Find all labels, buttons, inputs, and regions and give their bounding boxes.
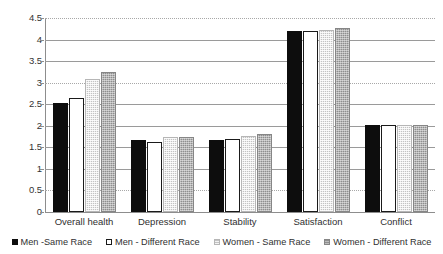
y-axis-tick-label: 4 bbox=[2, 35, 42, 45]
legend-swatch-icon bbox=[214, 239, 220, 245]
x-axis-tick-label: Satisfaction bbox=[279, 216, 357, 228]
bar[interactable] bbox=[257, 134, 272, 212]
x-axis-tick-label: Stability bbox=[201, 216, 279, 228]
y-axis-tick-mark bbox=[40, 126, 44, 127]
bar[interactable] bbox=[397, 125, 412, 212]
legend-item-label: Men -Same Race bbox=[21, 237, 93, 247]
bar[interactable] bbox=[53, 103, 68, 212]
bar[interactable] bbox=[365, 125, 380, 212]
bar-group bbox=[357, 18, 435, 212]
legend-item[interactable]: Women - Different Race bbox=[324, 237, 431, 247]
bar[interactable] bbox=[287, 31, 302, 212]
bar-group-bars bbox=[279, 18, 365, 212]
bar[interactable] bbox=[335, 28, 350, 213]
y-axis-tick-label: 1 bbox=[2, 164, 42, 174]
legend-item[interactable]: Men -Same Race bbox=[12, 237, 93, 247]
legend-swatch-icon bbox=[324, 239, 330, 245]
bar-group bbox=[123, 18, 201, 212]
y-axis: 4.543.532.521.510.50 bbox=[0, 18, 42, 212]
legend-item[interactable]: Women - Same Race bbox=[214, 237, 311, 247]
bar[interactable] bbox=[241, 136, 256, 212]
y-axis-tick-mark bbox=[40, 212, 44, 213]
bar-group-bars bbox=[201, 18, 287, 212]
y-axis-tick-mark bbox=[40, 190, 44, 191]
legend-swatch-icon bbox=[106, 239, 112, 245]
bar-group-bars bbox=[45, 18, 131, 212]
bar-group bbox=[201, 18, 279, 212]
legend-item[interactable]: Men - Different Race bbox=[106, 237, 200, 247]
legend-item-label: Men - Different Race bbox=[115, 237, 200, 247]
x-axis-tick-label: Depression bbox=[123, 216, 201, 228]
y-axis-tick-label: 2 bbox=[2, 121, 42, 131]
bar[interactable] bbox=[225, 139, 240, 212]
bar[interactable] bbox=[413, 125, 428, 212]
y-axis-tick-mark bbox=[40, 61, 44, 62]
bar[interactable] bbox=[85, 79, 100, 212]
y-axis-tick-mark bbox=[40, 40, 44, 41]
x-axis-line bbox=[45, 212, 435, 213]
y-axis-tick-mark bbox=[40, 147, 44, 148]
y-axis-tick-mark bbox=[40, 83, 44, 84]
y-axis-tick-label: 0.5 bbox=[2, 185, 42, 195]
y-axis-tick-label: 3.5 bbox=[2, 56, 42, 66]
bar-group-bars bbox=[357, 18, 443, 212]
chart-legend: Men -Same RaceMen - Different RaceWomen … bbox=[0, 234, 443, 250]
y-axis-tick-mark bbox=[40, 169, 44, 170]
bar[interactable] bbox=[131, 140, 146, 212]
bar[interactable] bbox=[163, 137, 178, 212]
bar-group bbox=[45, 18, 123, 212]
bar[interactable] bbox=[209, 140, 224, 212]
bar[interactable] bbox=[179, 137, 194, 212]
bar[interactable] bbox=[69, 98, 84, 212]
y-axis-tick-mark bbox=[40, 104, 44, 105]
y-axis-tick-label: 4.5 bbox=[2, 13, 42, 23]
y-axis-tick-label: 2.5 bbox=[2, 99, 42, 109]
y-axis-tick-label: 1.5 bbox=[2, 142, 42, 152]
bar[interactable] bbox=[319, 30, 334, 212]
legend-item-label: Women - Different Race bbox=[333, 237, 431, 247]
bar[interactable] bbox=[101, 72, 116, 212]
bar[interactable] bbox=[147, 142, 162, 212]
bar-group bbox=[279, 18, 357, 212]
bar[interactable] bbox=[303, 31, 318, 212]
bar-group-bars bbox=[123, 18, 209, 212]
y-axis-tick-label: 3 bbox=[2, 78, 42, 88]
bar[interactable] bbox=[381, 125, 396, 213]
bar-chart: 4.543.532.521.510.50 Overall healthDepre… bbox=[0, 0, 443, 254]
x-axis: Overall healthDepressionStabilitySatisfa… bbox=[45, 216, 435, 232]
x-axis-tick-label: Overall health bbox=[45, 216, 123, 228]
legend-item-label: Women - Same Race bbox=[223, 237, 311, 247]
legend-swatch-icon bbox=[12, 239, 18, 245]
plot-area bbox=[45, 18, 435, 212]
y-axis-tick-mark bbox=[40, 18, 44, 19]
y-axis-tick-label: 0 bbox=[2, 207, 42, 217]
x-axis-tick-label: Conflict bbox=[357, 216, 435, 228]
